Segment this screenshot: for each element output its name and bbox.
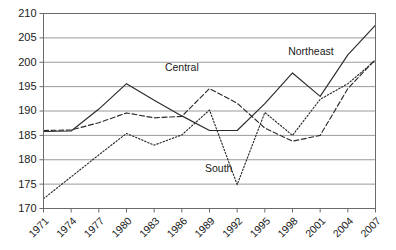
y-tick-label: 210 <box>18 7 36 19</box>
x-tick-label: 2004 <box>330 214 355 239</box>
x-tick-label: 2001 <box>303 214 328 239</box>
y-tick-label: 200 <box>18 56 36 68</box>
x-tick-label: 1989 <box>192 214 217 239</box>
x-tick-label: 1971 <box>26 214 51 239</box>
x-tick-label: 1986 <box>164 214 189 239</box>
series-label-south: South <box>205 162 233 174</box>
chart-canvas: 170175180185190195200205210 197119741977… <box>0 0 396 250</box>
x-tick-label: 1980 <box>109 214 134 239</box>
y-tick-label: 190 <box>18 104 36 116</box>
x-tick-label: 1992 <box>220 214 245 239</box>
y-tick-label: 170 <box>18 202 36 214</box>
x-tick-label: 1998 <box>275 214 300 239</box>
y-axis-tick-labels: 170175180185190195200205210 <box>18 7 36 214</box>
series-label-central: Central <box>165 61 199 73</box>
y-tick-label: 205 <box>18 31 36 43</box>
y-tick-label: 180 <box>18 153 36 165</box>
y-tick-label: 195 <box>18 80 36 92</box>
x-tick-label: 1974 <box>54 214 79 239</box>
x-tick-label: 1995 <box>247 214 272 239</box>
line-chart: 170175180185190195200205210 197119741977… <box>0 0 396 250</box>
series-label-northeast: Northeast <box>288 45 334 57</box>
y-tick-label: 185 <box>18 129 36 141</box>
x-tick-label: 2007 <box>358 214 383 239</box>
x-axis-tick-labels: 1971197419771980198319861989199219951998… <box>26 214 383 239</box>
x-tick-label: 1983 <box>137 214 162 239</box>
y-tick-label: 175 <box>18 178 36 190</box>
x-tick-label: 1977 <box>81 214 106 239</box>
x-axis-tickmarks <box>44 209 376 213</box>
